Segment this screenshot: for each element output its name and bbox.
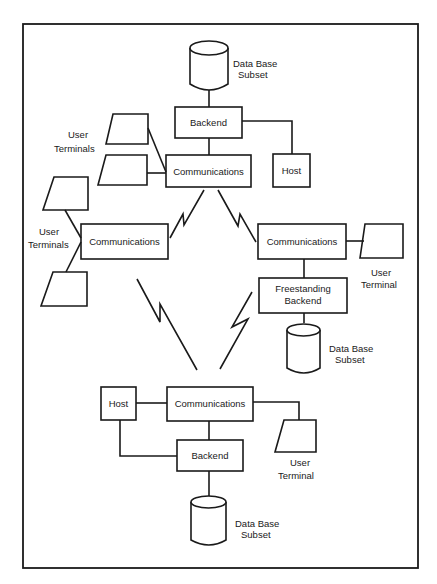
telecom-link-icon — [220, 292, 252, 369]
user-terminal-icon — [98, 155, 147, 185]
user-terminal-icon — [106, 114, 148, 144]
communications-label: Communications — [173, 166, 244, 177]
telecom-links — [137, 190, 256, 370]
backend-label: Backend — [192, 450, 229, 461]
backend-label: Backend — [190, 117, 227, 128]
host-label: Host — [282, 165, 302, 176]
freestanding-backend-label: Freestanding — [275, 283, 330, 294]
user-terminal-label: Terminal — [278, 470, 314, 481]
database-label: Data Base — [235, 518, 279, 529]
user-terminal-icon — [41, 272, 87, 306]
distributed-database-diagram: Data Base Subset Backend Communications … — [0, 0, 437, 584]
database-label: Data Base — [329, 343, 373, 354]
database-label: Data Base — [233, 58, 277, 69]
user-terminal-icon — [43, 177, 88, 210]
user-terminal-icon — [360, 224, 403, 258]
right-cluster: Communications User Terminal Freestandin… — [258, 224, 403, 373]
user-terminals-label: Terminals — [28, 239, 69, 250]
user-terminal-icon — [275, 420, 316, 452]
database-cylinder-icon — [191, 496, 226, 545]
communications-label: Communications — [267, 236, 338, 247]
communications-label: Communications — [89, 236, 160, 247]
top-cluster: Data Base Subset Backend Communications … — [54, 41, 310, 187]
freestanding-backend-label: Backend — [285, 295, 322, 306]
user-terminal-label: User — [290, 457, 310, 468]
user-terminal-label: Terminal — [361, 279, 397, 290]
telecom-link-icon — [218, 190, 256, 242]
database-label: Subset — [238, 69, 268, 80]
left-cluster: Communications User Terminals — [28, 177, 168, 306]
user-terminal-label: User — [371, 267, 391, 278]
database-cylinder-icon — [287, 324, 320, 373]
telecom-link-icon — [137, 279, 197, 370]
host-label: Host — [109, 398, 129, 409]
database-label: Subset — [241, 529, 271, 540]
user-terminals-label: User — [68, 129, 88, 140]
database-label: Subset — [335, 354, 365, 365]
user-terminals-label: Terminals — [54, 143, 95, 154]
telecom-link-icon — [170, 190, 204, 238]
communications-label: Communications — [175, 398, 246, 409]
bottom-cluster: Host Communications User Terminal Backen… — [101, 387, 316, 545]
database-cylinder-icon — [190, 41, 228, 90]
user-terminals-label: User — [39, 226, 59, 237]
